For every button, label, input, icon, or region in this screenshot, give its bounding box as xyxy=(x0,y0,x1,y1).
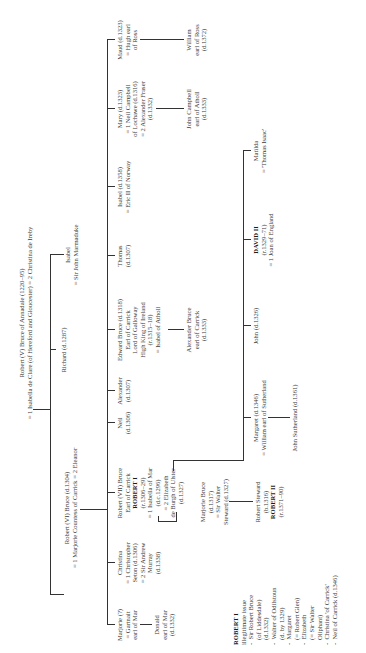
spouse-line: (d.1332) xyxy=(146,81,154,137)
list-item: - Walter of Odilstoun xyxy=(270,575,278,645)
spouse-line: (d.c.1296) xyxy=(154,468,162,519)
title-line: earl of Mar xyxy=(161,610,169,640)
name-line: John Campbell xyxy=(185,89,193,129)
bullet: - xyxy=(270,643,277,645)
alexander-bruce-carrick: Alexander Bruce earl of Carrick (d.1333) xyxy=(185,308,208,353)
connector xyxy=(176,512,177,522)
spouse-line: = Isabel of Atholl xyxy=(154,299,162,361)
family-tree-diagram: Robert (V) Bruce of Annadale (1220–95) =… xyxy=(0,0,366,653)
robert-steward-robert-ii: Robert Steward (b.1316) ROBERT II (r.137… xyxy=(254,481,284,522)
margaret-sutherland: Margaret (d.1346) = William earl of Suth… xyxy=(252,380,267,455)
dates-line: (d.1306) xyxy=(124,412,132,435)
connector xyxy=(50,349,56,350)
reign-dates: (r.1329–71) xyxy=(260,213,268,266)
item-line: (= Sir Walter xyxy=(308,606,315,640)
item-line: Sir Robert Bruce xyxy=(247,595,254,640)
regnal-name: ROBERT I xyxy=(131,468,139,519)
list-item: - Elizabeth xyxy=(300,575,308,645)
list-item-cont: (= Robert Glen) xyxy=(293,575,301,645)
connector xyxy=(107,39,108,625)
illegitimate-issue-list: ROBERT I illegitimate issue - Sir Robert… xyxy=(232,575,338,645)
connector xyxy=(156,108,184,109)
list-subheading: illegitimate issue xyxy=(240,575,248,645)
name-line: Maud (d.1323) xyxy=(116,20,124,60)
donald-earl-of-mar: Donald earl of Mar (d.1332) xyxy=(153,610,176,640)
connector xyxy=(158,521,176,522)
name-line: Alexander xyxy=(116,377,124,404)
list-item: - Sir Robert Bruce xyxy=(247,575,255,645)
name-line: John Sutherland (d.1361) xyxy=(291,385,299,452)
list-item: - Neil of Carrick (d.1346) xyxy=(331,575,339,645)
spouse-line: = Sir John Marmaduke xyxy=(72,225,80,286)
name-line: Robert Steward xyxy=(254,481,262,522)
spouse-line: of Lochawe (d.1316) xyxy=(131,81,139,137)
spouse-line: = Eric II of Norway xyxy=(124,161,132,213)
spouse-line: = 1 Christopher xyxy=(124,542,132,583)
name-line: Marjorie Bruce xyxy=(199,479,207,525)
david-ii: DAVID II (r.1329–71) = 1 Joan of England xyxy=(252,213,275,266)
spouse-line: = Hugh earl xyxy=(124,20,132,60)
thomas: Thomas (d.1307) xyxy=(116,245,131,268)
name-line: Thomas xyxy=(116,245,124,268)
connector xyxy=(140,39,184,40)
connector xyxy=(33,409,50,410)
william-earl-of-ross: William earl of Ross (d.1372) xyxy=(185,24,208,56)
neil: Neil (d.1306) xyxy=(116,412,131,435)
reign-dates: (r.1306–29) xyxy=(139,468,147,519)
connector xyxy=(140,624,152,625)
name-line: Margaret (d.1346) xyxy=(252,380,260,455)
connector xyxy=(107,39,115,40)
spouse-line: of Ross xyxy=(131,20,139,60)
name-line: William xyxy=(185,24,193,56)
isabel-norway: Isabel (d.1358) = Eric II of Norway xyxy=(116,161,131,213)
item-line: (= Robert Glen) xyxy=(293,598,300,640)
bullet: - xyxy=(300,643,307,645)
spouse-line: = 1 Isabella de Clare (of Hereford and G… xyxy=(26,227,34,420)
spouse-line: = 1 Joan of England xyxy=(267,213,275,266)
item-line: (d.1332) xyxy=(262,618,269,641)
marjorie-bruce: Marjorie Bruce (d.1317) = Sir Walter Ste… xyxy=(199,479,229,525)
name-line: Robert (VI) Bruce (d.1304) xyxy=(63,448,71,568)
item-line: Margaret xyxy=(285,615,292,639)
spouse-line: = William earl of Sutherland xyxy=(260,380,268,455)
name-line: Robert (V) Bruce of Annadale (1220–95) xyxy=(18,227,26,420)
title-line: Earl of Carrick xyxy=(124,468,132,519)
list-item-cont: (d.1332) xyxy=(262,575,270,645)
connector xyxy=(243,151,244,461)
title-line: Lord of Galloway xyxy=(131,299,139,361)
connector xyxy=(243,325,251,326)
connector xyxy=(107,255,115,256)
spouse-line: = Gartnait xyxy=(124,609,132,641)
list-item-cont: (= Sir Walter xyxy=(308,575,316,645)
connector xyxy=(107,329,115,330)
connector xyxy=(107,186,115,187)
bullet: - xyxy=(323,643,330,645)
bullet: - xyxy=(247,643,254,645)
name-line: Donald xyxy=(153,610,161,640)
spouse-line: = Sir Walter xyxy=(214,479,222,525)
dates-line: (d.1307) xyxy=(124,245,132,268)
spouse-line: (d.1327) xyxy=(177,468,185,519)
name-line: Alexander Bruce xyxy=(185,308,193,353)
dates-line: (b.1316) xyxy=(262,481,270,522)
connector xyxy=(50,594,64,595)
connector xyxy=(243,239,251,240)
alexander: Alexander (d.1307) xyxy=(116,377,131,404)
connector xyxy=(107,492,115,493)
connector xyxy=(50,254,64,255)
name-line: Marjorie (?) xyxy=(116,609,124,641)
connector xyxy=(268,417,290,418)
title-line: earl of Carrick xyxy=(193,308,201,353)
dates-line: (d.1333) xyxy=(200,308,208,353)
john-campbell-atholl: John Campbell earl of Atholl (d.1333) xyxy=(185,89,208,129)
name-line: Isabel (d.1358) xyxy=(116,161,124,213)
list-item-cont: (of Liddesdale) xyxy=(255,575,263,645)
reign-dates: (r.1315–18) xyxy=(146,299,154,361)
title-line: earl of Atholl xyxy=(193,89,201,129)
title-line: High King of Ireland xyxy=(139,299,147,361)
john-sutherland: John Sutherland (d.1361) xyxy=(291,385,299,452)
name-line: Edward Bruce (d.1318) xyxy=(116,299,124,361)
connector xyxy=(229,501,253,502)
spouse-line: (d.1338) xyxy=(154,542,162,583)
name-line: Richard (d.1287) xyxy=(60,327,68,372)
